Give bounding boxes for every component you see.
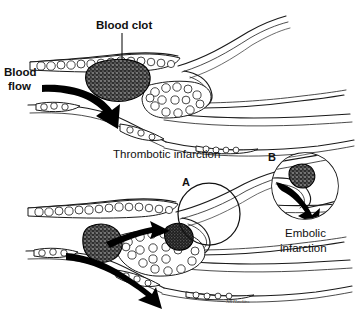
caption-thrombotic-infarction: Thrombotic infarction bbox=[113, 148, 220, 160]
caption-embolic-line2: infarction bbox=[280, 242, 327, 254]
caption-embolic-line1: Embolic bbox=[285, 227, 326, 239]
label-blood-flow-line1: Blood bbox=[4, 66, 37, 78]
figure-root: Blood clot Blood flow Thrombotic infarct… bbox=[0, 0, 358, 322]
medical-illustration: Blood clot Blood flow Thrombotic infarct… bbox=[0, 0, 358, 322]
blood-clot-mass bbox=[86, 59, 151, 101]
travelling-embolus bbox=[165, 223, 194, 250]
label-blood-clot: Blood clot bbox=[96, 19, 152, 31]
label-blood-flow-line2: flow bbox=[8, 80, 31, 92]
artist-signature: NR Hawkins bbox=[225, 299, 249, 304]
marker-label-b: B bbox=[268, 151, 276, 163]
marker-label-a: A bbox=[182, 176, 190, 188]
